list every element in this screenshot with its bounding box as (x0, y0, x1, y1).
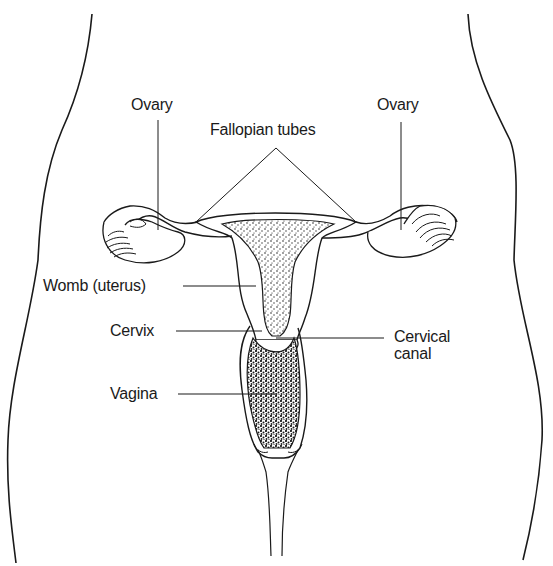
ovary-right (368, 206, 456, 258)
label-cervix: Cervix (110, 323, 154, 339)
vaginal-cavity (247, 338, 300, 448)
fallopian-tube-left (104, 206, 198, 224)
leader-fallopian-left (196, 148, 276, 222)
vaginal-opening (258, 450, 271, 556)
label-womb: Womb (uterus) (43, 278, 146, 294)
label-vagina: Vagina (110, 386, 157, 402)
label-fallopian-tubes: Fallopian tubes (210, 122, 316, 138)
label-ovary-right: Ovary (377, 97, 419, 113)
leader-fallopian-right (276, 148, 356, 222)
label-cervical-canal: Cervical canal (394, 328, 450, 362)
body-outline-right (468, 14, 542, 560)
label-ovary-left: Ovary (131, 97, 173, 113)
diagram-canvas: Ovary Ovary Fallopian tubes Womb (uterus… (0, 0, 553, 566)
